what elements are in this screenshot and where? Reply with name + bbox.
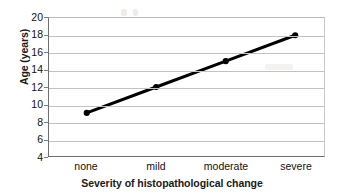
data-point-marker [84,110,90,116]
gridline [49,88,324,89]
gridline [49,106,324,107]
y-axis-tick-label: 8 [22,117,43,128]
scan-artifact [265,64,293,70]
x-axis-tick-label: none [74,160,97,173]
y-axis-tick-label: 20 [22,12,43,23]
y-axis-tick-label: 10 [22,99,43,110]
x-axis-tick-label: moderate [204,160,248,173]
x-axis-tick-label: severe [280,160,312,173]
data-point-marker [223,58,229,64]
y-axis-tick-label: 12 [22,82,43,93]
x-axis-tick-labels: nonemildmoderatesevere [48,160,325,174]
series-line [87,35,295,113]
chart-figure: Age (years) 201816141210864 nonemildmode… [0,0,344,196]
gridline [49,71,324,72]
y-axis-tick-label: 4 [22,152,43,163]
y-axis-tick-labels: 201816141210864 [22,11,43,157]
y-axis-tick-label: 6 [22,134,43,145]
x-axis-title: Severity of histopathological change [0,177,344,189]
y-axis-tick-label: 18 [22,29,43,40]
x-axis-tick-label: mild [146,160,165,173]
scan-artifact [121,9,127,16]
gridline [49,141,324,142]
y-axis-tick-label: 14 [22,64,43,75]
data-point-marker [153,84,159,90]
gridline [49,36,324,37]
scan-artifact [133,9,138,16]
gridline [49,123,324,124]
data-series-line [49,18,324,156]
plot-area [48,17,325,157]
y-axis-tick-label: 16 [22,47,43,58]
y-axis-tick-mark [44,157,48,158]
gridline [49,53,324,54]
